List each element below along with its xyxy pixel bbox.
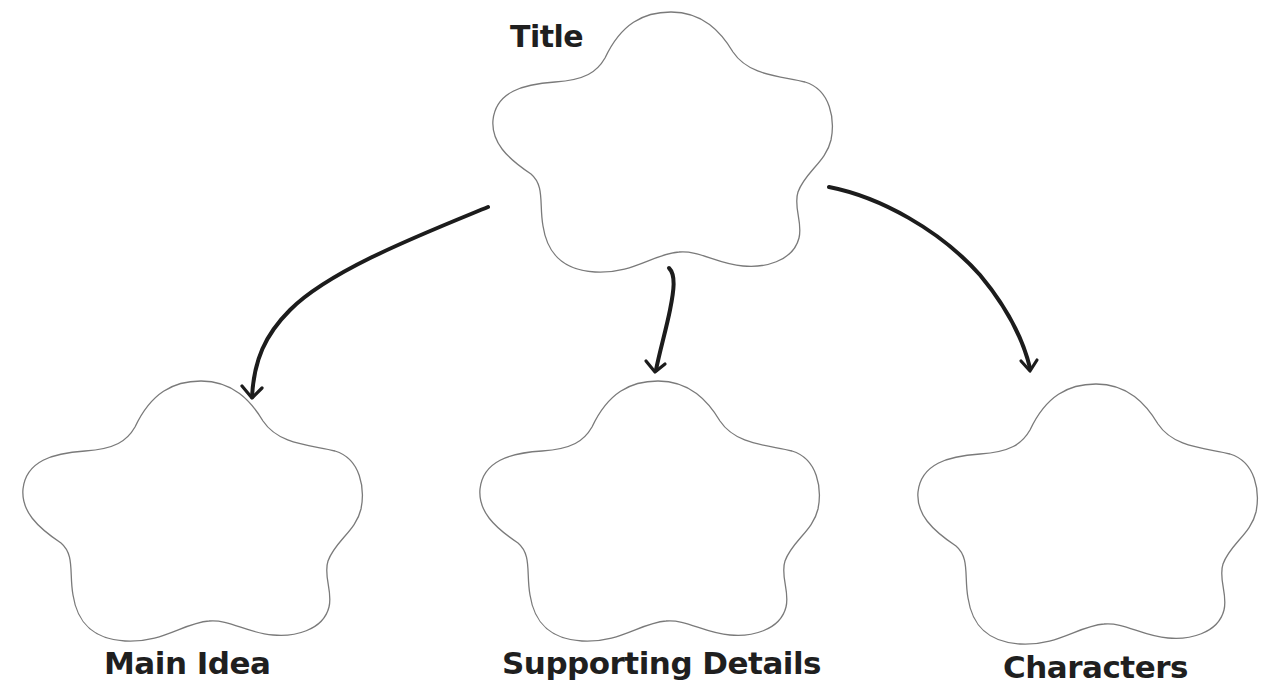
cloud-characters-outline [918, 384, 1258, 644]
label-title: Title [510, 22, 583, 52]
arrow-title-to-characters [829, 187, 1037, 371]
diagram-canvas [0, 0, 1266, 699]
cloud-main-idea[interactable] [23, 381, 363, 641]
arrow-title-to-main-idea [242, 207, 488, 398]
arrow-shaft [829, 187, 1030, 368]
cloud-supporting-details[interactable] [480, 381, 820, 641]
arrow-title-to-supporting-details [646, 268, 674, 372]
cloud-characters[interactable] [918, 384, 1258, 644]
label-main-idea: Main Idea [104, 648, 270, 679]
label-characters: Characters [1003, 652, 1188, 683]
cloud-supporting-details-outline [480, 381, 820, 641]
label-supporting-details: Supporting Details [502, 648, 821, 679]
cloud-main-idea-outline [23, 381, 363, 641]
arrow-shaft [252, 207, 488, 397]
arrow-shaft [656, 268, 674, 370]
